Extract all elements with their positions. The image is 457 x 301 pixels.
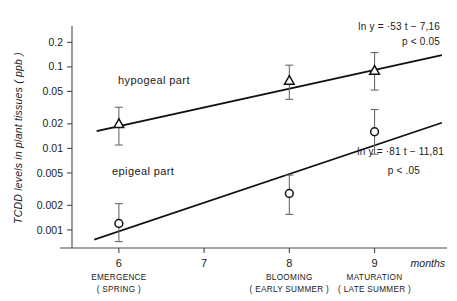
chart-container: 0.20.10.050.020.010.0050.0020.0016789EME… [0,0,457,301]
x-tick-label: 9 [371,257,377,269]
data-point-circle[interactable] [285,190,293,198]
regression-equation-hypogeal: ln y = ·53 t − 7,16 [358,21,440,32]
stage-label-season: ( EARLY SUMMER ) [250,285,330,294]
y-tick-label: 0.02 [43,117,64,129]
regression-line [98,55,441,131]
x-tick-label: 7 [201,257,207,269]
y-tick-label: 0.01 [43,142,64,154]
y-axis-title: TCDD levels in plant tissues ( ppb ) [12,52,24,224]
series-label-hypogeal: hypogeal part [118,74,190,86]
data-point-circle[interactable] [371,128,379,136]
data-point-triangle[interactable] [114,119,124,128]
series-hypogeal-part [98,53,441,145]
regression-equation-epigeal: ln y = ·81 t − 11,81 [357,146,444,157]
stage-label-primary: EMERGENCE [91,273,147,282]
stage-label-primary: MATURATION [347,273,403,282]
data-point-circle[interactable] [115,220,123,228]
x-tick-label: 8 [286,257,292,269]
x-tick-label: 6 [116,257,122,269]
regression-pvalue-epigeal: p < .05 [388,165,420,176]
regression-pvalue-hypogeal: p < 0.05 [402,36,440,47]
y-tick-label: 0.002 [37,199,63,211]
tcdd-log-scatter-chart: 0.20.10.050.020.010.0050.0020.0016789EME… [0,0,457,301]
y-tick-label: 0.005 [37,167,63,179]
stage-label-season: ( LATE SUMMER ) [338,285,411,294]
data-point-triangle[interactable] [285,76,295,85]
stage-label-primary: BLOOMING [266,273,313,282]
y-tick-label: 0.1 [48,60,63,72]
stage-label-season: ( SPRING ) [97,285,141,294]
y-tick-label: 0.05 [43,85,64,97]
series-label-epigeal: epigeal part [112,165,174,177]
y-tick-label: 0.001 [37,224,63,236]
regression-line [95,123,441,239]
y-tick-label: 0.2 [48,36,63,48]
x-axis-title: months [411,257,446,269]
